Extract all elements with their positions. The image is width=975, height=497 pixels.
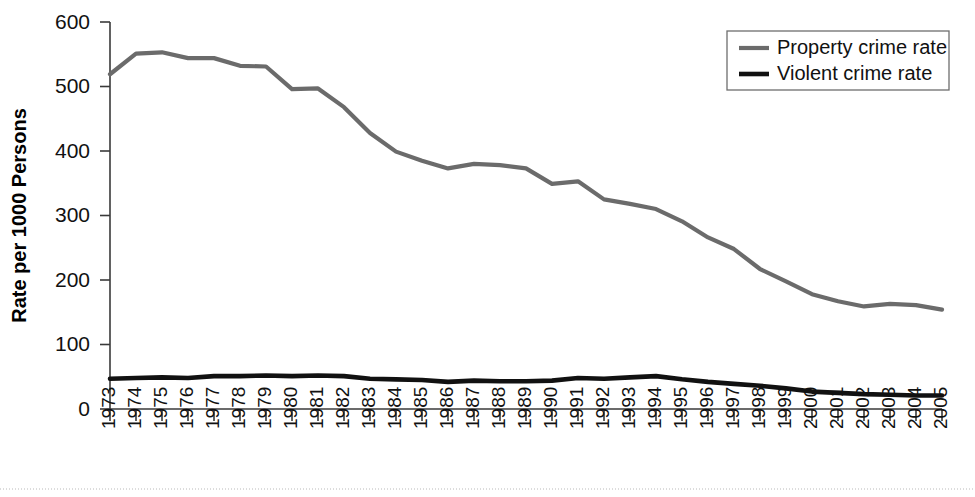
series-line-property-crime-rate [110,52,942,309]
x-tick-label: 1978 [228,387,249,429]
x-tick-label: 1982 [332,387,353,429]
x-tick-label: 1995 [670,387,691,429]
x-tick-label: 1997 [722,387,743,429]
x-tick-label: 1998 [748,387,769,429]
x-tick-label: 1973 [98,387,119,429]
x-tick-label: 1999 [774,387,795,429]
x-tick-label: 1989 [514,387,535,429]
y-tick-label: 500 [55,74,90,97]
x-tick-label: 1983 [358,387,379,429]
x-tick-label: 1993 [618,387,639,429]
x-tick-label: 1984 [384,386,405,429]
x-tick-label: 1987 [462,387,483,429]
legend-group: Property crime rateViolent crime rate [727,31,949,90]
chart-canvas: 0100200300400500600197319741975197619771… [0,0,975,497]
x-tick-label: 1974 [124,386,145,429]
x-tick-label: 1994 [644,386,665,429]
x-tick-label: 1985 [410,387,431,429]
x-tick-label: 1977 [202,387,223,429]
series-group [110,52,942,395]
x-tick-label: 1992 [592,387,613,429]
y-tick-label: 200 [55,268,90,291]
crime-rate-line-chart: 0100200300400500600197319741975197619771… [0,0,975,497]
y-tick-label: 400 [55,139,90,162]
x-tick-label: 1996 [696,387,717,429]
y-axis-title: Rate per 1000 Persons [8,108,30,323]
legend-label-violent: Violent crime rate [777,62,932,84]
x-tick-label: 1986 [436,387,457,429]
x-tick-label: 1980 [280,387,301,429]
x-tick-label: 1991 [566,387,587,429]
x-tick-label: 1976 [176,387,197,429]
x-tick-label: 2005 [930,387,951,429]
y-tick-label: 300 [55,203,90,226]
x-tick-label: 1975 [150,387,171,429]
x-tick-label: 1979 [254,387,275,429]
legend-label-property: Property crime rate [777,36,947,58]
y-tick-label: 100 [55,332,90,355]
x-tick-label: 2004 [904,386,925,429]
y-tick-label: 600 [55,10,90,33]
x-tick-label: 1988 [488,387,509,429]
x-tick-label: 1990 [540,387,561,429]
y-tick-label: 0 [78,397,90,420]
x-tick-label: 1981 [306,387,327,429]
